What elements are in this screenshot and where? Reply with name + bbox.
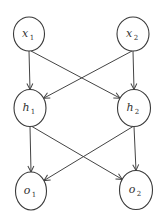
edge-h2-o1: [44, 127, 133, 181]
node-h2: h2: [118, 90, 151, 127]
node-subscript-o1: 1: [32, 191, 36, 199]
node-h1: h1: [14, 90, 46, 127]
node-subscript-o2: 2: [137, 190, 141, 198]
nodes: x1x2h1h2o1o2: [14, 17, 153, 210]
node-subscript-h1: 1: [31, 108, 35, 116]
node-label-x2: x: [126, 27, 133, 40]
edge-h2-o2: [134, 127, 136, 171]
node-subscript-x2: 2: [134, 34, 138, 42]
node-label-x1: x: [22, 27, 29, 40]
node-o2: o2: [120, 171, 153, 210]
edge-x2-h2: [133, 51, 134, 90]
edge-h1-o1: [30, 127, 31, 173]
neural-network-diagram: x1x2h1h2o1o2: [0, 0, 164, 219]
edge-x2-h1: [44, 51, 132, 98]
edge-x1-h1: [29, 51, 30, 90]
node-label-o2: o: [129, 183, 136, 196]
node-x2: x2: [117, 17, 149, 51]
node-x1: x1: [14, 17, 45, 51]
edge-x1-h2: [31, 51, 120, 98]
node-subscript-x1: 1: [30, 34, 34, 42]
node-label-h1: h: [22, 101, 29, 114]
node-label-o1: o: [24, 184, 31, 197]
node-label-h2: h: [126, 101, 133, 114]
node-subscript-h2: 2: [135, 108, 139, 116]
node-o1: o1: [16, 172, 47, 210]
edge-h1-o2: [32, 127, 122, 180]
